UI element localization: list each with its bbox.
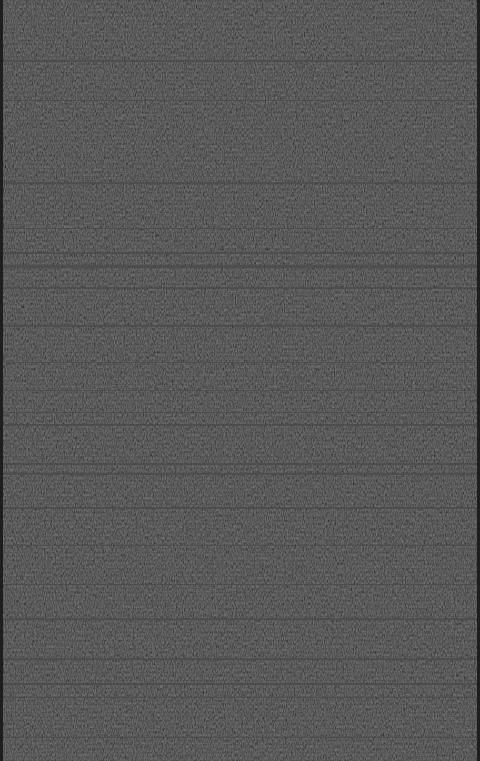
noise-texture bbox=[0, 0, 480, 761]
static-noise-screen bbox=[0, 0, 480, 761]
left-edge bbox=[0, 0, 3, 761]
